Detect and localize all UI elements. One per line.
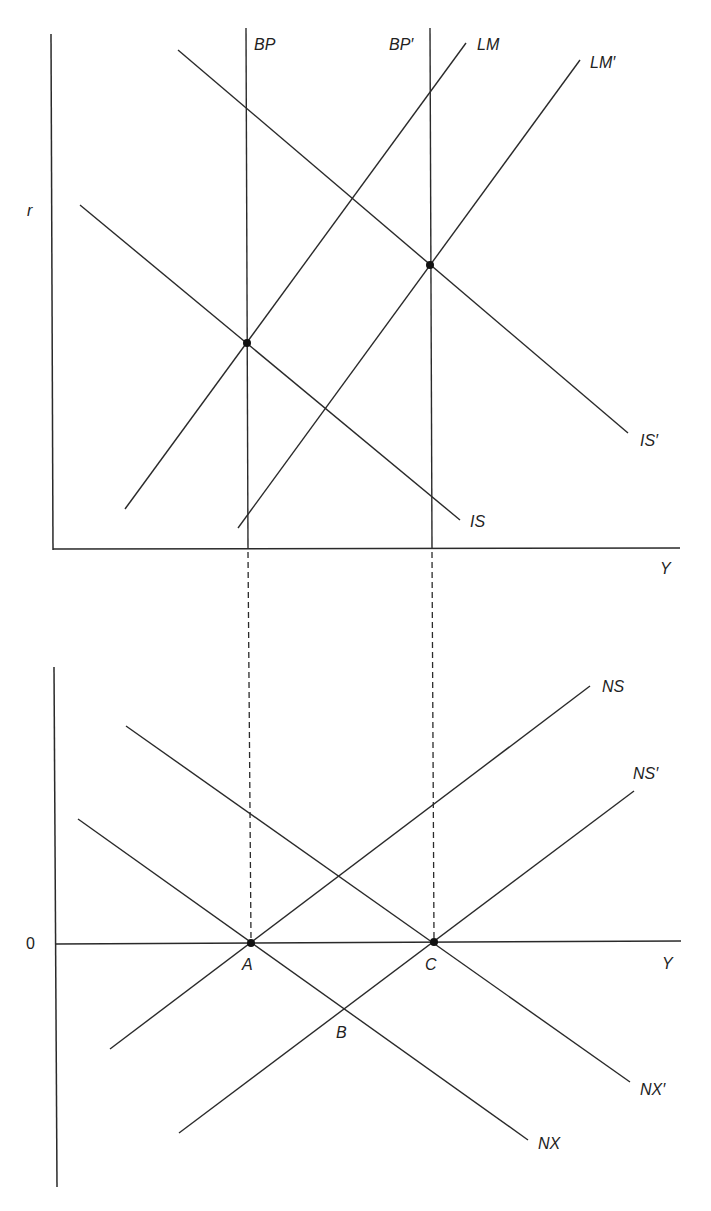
nx-prime-label: NX′ — [640, 1081, 666, 1098]
is-label: IS — [470, 513, 485, 530]
bottom-panel: 0 Y A B C NS NS′ NX NX′ — [26, 667, 681, 1187]
nx-curve — [78, 819, 528, 1140]
is-prime-curve — [178, 50, 628, 433]
equilibrium-dot-new — [426, 261, 434, 269]
is-prime-label: IS′ — [640, 432, 659, 449]
nx-label: NX — [538, 1135, 562, 1152]
bottom-y-axis — [54, 667, 57, 1187]
top-y-axis — [51, 34, 53, 550]
bp-prime-curve — [430, 28, 432, 548]
ns-curve — [110, 686, 590, 1049]
top-panel: r Y BP BP′ LM LM′ IS IS′ — [27, 28, 680, 577]
bp-curve — [246, 28, 248, 549]
lm-curve — [125, 43, 466, 509]
dashed-connectors — [248, 552, 434, 940]
bottom-x-axis — [56, 941, 681, 944]
equilibrium-dot-initial — [243, 339, 251, 347]
top-x-axis — [53, 548, 680, 549]
dashed-connector-c — [432, 552, 434, 940]
dashed-connector-a — [248, 552, 251, 940]
bp-label: BP — [254, 36, 276, 53]
point-a-label: A — [241, 956, 253, 973]
ns-label: NS — [602, 678, 625, 695]
bottom-x-axis-label: Y — [662, 955, 674, 972]
is-curve — [80, 205, 460, 520]
point-b-label: B — [336, 1024, 347, 1041]
lm-prime-label: LM′ — [590, 54, 616, 71]
origin-label: 0 — [26, 935, 35, 952]
ns-prime-label: NS′ — [633, 765, 659, 782]
top-y-axis-label: r — [27, 202, 33, 219]
bp-prime-label: BP′ — [389, 36, 414, 53]
point-a-dot — [247, 939, 255, 947]
lm-prime-curve — [238, 60, 580, 528]
top-x-axis-label: Y — [660, 560, 672, 577]
lm-label: LM — [477, 36, 500, 53]
point-c-dot — [430, 938, 438, 946]
point-c-label: C — [425, 956, 437, 973]
is-lm-bp-diagram: r Y BP BP′ LM LM′ IS IS′ 0 Y A B C NS NS… — [0, 0, 711, 1211]
nx-prime-curve — [126, 726, 630, 1082]
